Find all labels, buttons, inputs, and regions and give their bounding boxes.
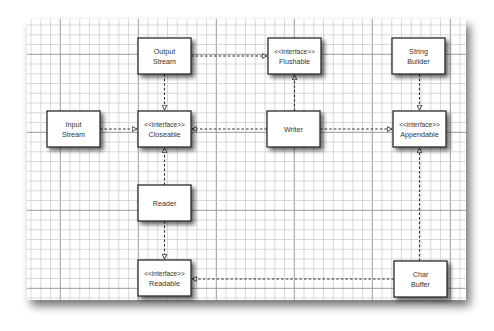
class-name-label: Flushable [279,57,310,66]
class-name-label: Stream [62,130,85,139]
stereotype-label: <<interface>> [144,121,185,128]
class-name-label: String [409,47,428,56]
class-name-label: Appendable [400,130,438,139]
class-box-appendable[interactable]: <<interface>>Appendable [393,111,446,147]
class-name-label: Readable [149,279,180,288]
class-box-flushable[interactable]: <<interface>>Flushable [268,38,321,74]
class-name-label: Closeable [149,130,181,139]
class-box-readable[interactable]: <<interface>>Readable [138,260,191,296]
class-name-label: Char [413,270,429,279]
class-name-label: Output [154,47,176,56]
class-name-label: Writer [284,125,304,134]
class-box-output-stream[interactable]: OutputStream [138,38,191,74]
stereotype-label: <<interface>> [399,121,440,128]
class-name-label: Stream [153,57,176,66]
class-box-input-stream[interactable]: InputStream [47,111,100,147]
class-name-label: Input [66,120,82,129]
class-name-label: Buffer [411,280,431,289]
class-box-reader[interactable]: Reader [138,185,191,221]
class-box-char-buffer[interactable]: CharBuffer [394,261,447,297]
class-diagram: OutputStream<<interface>>FlushableString… [0,0,494,331]
class-box-string-builder[interactable]: StringBuilder [392,38,445,74]
class-box-closeable[interactable]: <<interface>>Closeable [138,111,191,147]
class-name-label: Reader [153,199,177,208]
stereotype-label: <<interface>> [144,270,185,277]
class-box-writer[interactable]: Writer [267,111,320,147]
stereotype-label: <<interface>> [274,48,315,55]
class-name-label: Builder [407,57,430,66]
